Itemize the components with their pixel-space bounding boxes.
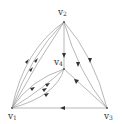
arrow-icon xyxy=(88,58,92,63)
edge-v3-v1 xyxy=(12,106,107,110)
arrow-icon xyxy=(45,83,50,87)
arrow-icon xyxy=(34,58,38,63)
vertex-label-subscript: 2 xyxy=(63,10,67,17)
vertex-v2-dot xyxy=(63,21,65,23)
edge-v3-v4 xyxy=(64,69,107,108)
vertex-label-subscript: 4 xyxy=(59,60,63,67)
vertex-label-subscript: 1 xyxy=(13,114,17,121)
arrow-icon xyxy=(60,106,65,110)
arrow-icon xyxy=(76,62,80,67)
arrow-icon xyxy=(30,87,35,91)
vertex-label-v1: v1 xyxy=(8,112,17,121)
vertex-label-v2: v2 xyxy=(58,8,67,17)
vertex-v3-dot xyxy=(106,107,108,109)
vertex-label-v3: v3 xyxy=(104,112,113,121)
vertex-label-v4: v4 xyxy=(54,58,63,67)
vertex-v4-dot xyxy=(63,68,65,70)
vertex-label-subscript: 3 xyxy=(109,114,113,121)
arrow-icon xyxy=(42,88,47,92)
vertex-v1-dot xyxy=(11,107,13,109)
edges-v2-v3 xyxy=(64,22,107,108)
